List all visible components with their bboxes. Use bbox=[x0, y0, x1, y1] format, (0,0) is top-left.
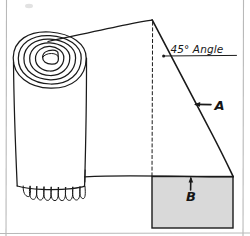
frame-right-line bbox=[243, 0, 244, 236]
angle-leader-underline bbox=[164, 55, 237, 56]
vertical-reference-dashed-line bbox=[152, 22, 153, 176]
roll-fringe bbox=[17, 186, 85, 201]
frame-left-line bbox=[6, 0, 7, 236]
callout-a-label: A bbox=[214, 98, 225, 113]
callout-b-label: B bbox=[186, 189, 196, 204]
spiral-core-inner-stroke bbox=[43, 53, 58, 57]
angle-callout bbox=[162, 55, 236, 58]
hand-drawn-carpet-roll-diagram: 45° Angle A B bbox=[0, 0, 250, 236]
frame-bottom-line bbox=[0, 233, 250, 234]
diagram-canvas: 45° Angle A B bbox=[0, 0, 250, 236]
pencil-smudge bbox=[25, 4, 33, 8]
angle-label: 45° Angle bbox=[171, 43, 224, 55]
fringe-loop-8 bbox=[80, 187, 85, 199]
